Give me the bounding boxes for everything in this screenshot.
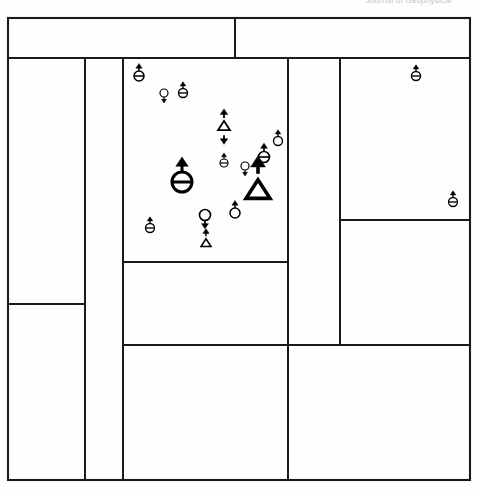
circle-glyph: [241, 162, 249, 170]
arrow-down-head: [202, 224, 209, 229]
arrow-up-head: [222, 153, 227, 157]
symbol-barred-circle-up-3: [220, 153, 228, 167]
symbol-barred-circle-up-5: [146, 217, 155, 233]
arrow-up-head: [203, 229, 209, 234]
panel-mid-right-column: [288, 58, 340, 345]
symbol-circle-up-1: [274, 130, 283, 146]
panel-top-left-banner: [8, 18, 235, 58]
panel-left-upper-block: [8, 58, 85, 304]
symbol-triangle-updown-1: [218, 109, 230, 144]
panel-top-right-banner: [235, 18, 470, 58]
panel-left-lower-block: [8, 304, 85, 480]
arrow-up-head: [136, 64, 142, 69]
triangle-glyph: [218, 121, 230, 130]
symbol-circle-down-1: [160, 89, 168, 103]
circle-glyph: [160, 89, 168, 97]
panel-left-narrow-strip: [85, 58, 123, 480]
arrow-up-head: [180, 82, 186, 86]
outer-frame: [8, 18, 470, 480]
panel-right-middle-panel: [340, 220, 470, 345]
triangle-glyph: [201, 239, 211, 247]
panel-rectangles-layer: [8, 18, 470, 480]
panel-bottom-right-panel: [288, 345, 470, 480]
symbol-circle-down-3: [200, 210, 211, 229]
circle-glyph: [274, 137, 283, 146]
arrow-down-head: [220, 139, 227, 145]
arrow-up-head: [232, 201, 238, 206]
arrow-up-head: [220, 109, 227, 115]
symbol-barred-circle-up-big: [172, 157, 192, 192]
panel-center-middle-panel: [123, 262, 288, 345]
symbol-triangle-up-small: [201, 229, 211, 247]
panel-right-upper-panel: [340, 58, 470, 220]
symbol-circle-up-2: [230, 201, 240, 219]
arrow-up-head: [413, 65, 419, 69]
panel-center-lower-panel: [123, 345, 288, 480]
arrow-down-head: [243, 172, 248, 176]
symbol-barred-circle-up-2: [179, 82, 188, 98]
arrow-down-head: [162, 99, 167, 103]
symbol-circle-down-2: [241, 162, 249, 176]
arrow-up-head: [450, 191, 456, 195]
map-symbols-layer: [134, 64, 458, 247]
divider-lines-layer: [8, 18, 470, 480]
symbol-barred-circle-up-1: [134, 64, 144, 82]
arrow-up-head: [261, 143, 268, 148]
arrow-up-head: [176, 157, 188, 166]
arrow-up-head: [147, 217, 153, 221]
block-diagram-figure: [0, 0, 480, 493]
arrow-up-head: [275, 130, 281, 134]
circle-glyph: [200, 210, 211, 221]
triangle-glyph: [246, 180, 270, 199]
symbol-barred-circle-up-6: [412, 65, 421, 81]
figure-page: Journal of Geophysical: [0, 0, 480, 493]
circle-glyph: [230, 208, 240, 218]
symbol-barred-circle-up-7: [449, 191, 458, 207]
